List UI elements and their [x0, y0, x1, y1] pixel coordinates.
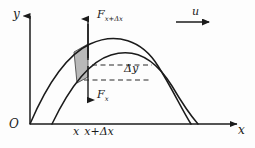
force-right-label-subscript: x+Δx: [105, 15, 123, 23]
force-right-label-base: F: [97, 8, 105, 21]
upper-wave-curve: [30, 39, 191, 124]
y-axis-label: y: [13, 8, 20, 20]
x-tick-label-first: x: [73, 125, 79, 138]
force-right-label: Fx+Δx: [97, 9, 123, 23]
x-axis-label: x: [238, 124, 245, 136]
flow-velocity-label: u: [192, 6, 199, 17]
force-left-label-base: F: [97, 88, 105, 101]
origin-label: O: [9, 118, 19, 130]
x-axis-tick-labels: xx+Δx: [73, 126, 114, 137]
force-left-label: Fx: [97, 89, 108, 103]
x-tick-label-second: x+Δx: [84, 125, 114, 138]
figure-container: y x O u Fx+Δx Fx Δy xx+Δx: [0, 0, 255, 148]
delta-y-label: Δy: [124, 63, 138, 74]
force-left-label-subscript: x: [105, 95, 109, 103]
